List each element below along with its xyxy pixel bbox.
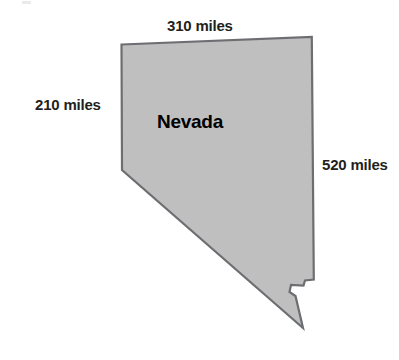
nevada-shape-svg bbox=[0, 0, 399, 360]
diagram-canvas: 310 miles 210 miles 520 miles Nevada bbox=[0, 0, 399, 360]
nevada-polygon bbox=[122, 37, 314, 328]
dimension-label-right: 520 miles bbox=[322, 157, 388, 172]
dimension-label-left: 210 miles bbox=[35, 97, 101, 112]
dimension-label-top: 310 miles bbox=[167, 18, 233, 33]
state-name-label: Nevada bbox=[157, 112, 223, 131]
